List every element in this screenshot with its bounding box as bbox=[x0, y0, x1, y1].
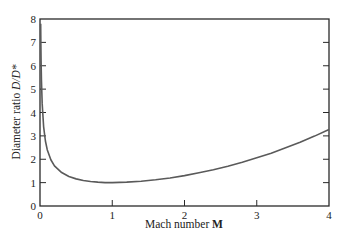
x-axis-label-symbol: M bbox=[212, 218, 223, 230]
x-tick-label: 0 bbox=[37, 209, 43, 221]
y-tick-label: 6 bbox=[31, 60, 37, 72]
plot-border bbox=[40, 19, 329, 206]
y-tick-label: 3 bbox=[31, 130, 37, 142]
y-tick-label: 4 bbox=[31, 107, 37, 119]
diameter-ratio-curve bbox=[41, 24, 329, 183]
x-tick-label: 4 bbox=[326, 209, 332, 221]
y-tick-label: 8 bbox=[31, 13, 37, 25]
chart: 01234 012345678 bbox=[0, 0, 341, 243]
y-axis-label-text: Diameter ratio bbox=[10, 90, 22, 160]
y-tick-label: 1 bbox=[31, 177, 37, 189]
plot-frame bbox=[40, 19, 329, 206]
y-axis-label-symbol: D/D* bbox=[10, 64, 22, 90]
x-axis-label: Mach number M bbox=[145, 218, 223, 230]
x-axis-label-text: Mach number bbox=[145, 218, 212, 230]
y-tick-label: 5 bbox=[31, 83, 37, 95]
y-axis-label: Diameter ratio D/D* bbox=[10, 64, 22, 159]
x-tick-label: 3 bbox=[254, 209, 260, 221]
y-tick-label: 0 bbox=[31, 200, 37, 212]
x-tick-label: 1 bbox=[110, 209, 116, 221]
y-axis-ticks: 012345678 bbox=[31, 13, 330, 212]
y-tick-label: 2 bbox=[31, 153, 37, 165]
y-tick-label: 7 bbox=[31, 36, 37, 48]
